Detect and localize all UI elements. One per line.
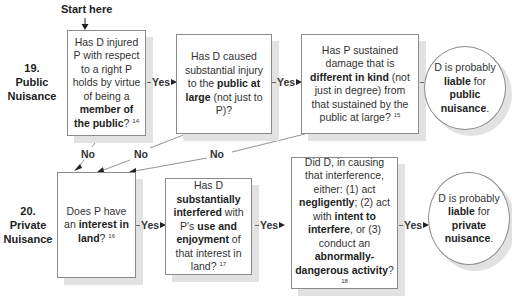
private-q3-yes-arrow: Yes: [399, 219, 429, 231]
result-text: D is probably: [434, 61, 495, 73]
private-q1-yes-arrow: Yes: [136, 219, 166, 231]
footnote-ref: 14: [132, 118, 139, 124]
public-q3-box: Has P sustained damage that is different…: [301, 34, 419, 134]
result-bold-text: liable: [444, 75, 471, 87]
public-q1-box: Has D injured P with respect to a right …: [67, 30, 146, 136]
section-title-line2: Nuisance: [6, 89, 58, 103]
section-label-public-nuisance: 19. Public Nuisance: [6, 61, 58, 103]
result-text: D is probably: [438, 192, 499, 204]
result-text: for: [475, 205, 490, 217]
question-text: ?: [100, 232, 106, 244]
section-label-private-nuisance: 20. Private Nuisance: [2, 204, 54, 246]
question-text: ?: [388, 264, 394, 276]
yes-label: Yes: [277, 76, 295, 88]
result-text: .: [490, 232, 493, 244]
section-number: 20.: [2, 204, 54, 218]
question-text: Did D, in causing that interference, eit…: [305, 156, 384, 195]
footnote-ref: 16: [108, 233, 115, 239]
private-q2-yes-arrow: Yes: [255, 219, 285, 231]
private-q2-box: Has D substantially interfered with P's …: [165, 178, 252, 275]
connector-line: [272, 82, 276, 83]
public-q2-no-label: No: [134, 148, 148, 160]
question-text: ?: [124, 117, 130, 129]
private-nuisance-result-oval: D is probably liable for private nuisanc…: [428, 172, 510, 265]
yes-label: Yes: [260, 219, 278, 231]
public-q2-box: Has D caused substantial injury to the p…: [176, 34, 272, 134]
question-bold-text: different in kind: [310, 71, 389, 83]
question-text: (not just to P)?: [211, 91, 263, 117]
public-q1-yes-arrow: Yes: [147, 76, 177, 88]
question-bold-text: abnormally-dangerous activity: [295, 250, 388, 276]
result-text: .: [486, 102, 489, 114]
public-q3-no-label: No: [210, 148, 224, 160]
yes-label: Yes: [152, 76, 170, 88]
section-title-line2: Nuisance: [2, 232, 54, 246]
yes-label: Yes: [141, 219, 159, 231]
connector-line: [136, 225, 140, 226]
question-text: Has P sustained damage that is: [322, 44, 398, 70]
private-q1-box: Does P have an interest in land? 16: [57, 172, 136, 278]
start-here-label: Start here: [61, 3, 112, 15]
yes-label: Yes: [404, 219, 422, 231]
section-title-line1: Public: [6, 75, 58, 89]
result-text: for: [471, 75, 486, 87]
question-bold-text: negligently: [299, 196, 354, 208]
footnote-ref: 17: [219, 261, 226, 267]
result-bold-text: public nuisance: [441, 88, 487, 114]
connector-line: [147, 82, 151, 83]
public-q2-yes-arrow: Yes: [272, 76, 302, 88]
arrow-right-icon: [279, 222, 285, 228]
public-nuisance-result-oval: D is probably liable for public nuisance…: [424, 46, 506, 130]
connector-line: [255, 225, 259, 226]
question-text: Has D: [194, 179, 223, 191]
section-title-line1: Private: [2, 218, 54, 232]
connector-line: [399, 225, 403, 226]
result-bold-text: private nuisance: [445, 219, 491, 245]
section-number: 19.: [6, 61, 58, 75]
result-bold-text: liable: [448, 205, 475, 217]
public-q1-no-label: No: [81, 148, 95, 160]
footnote-ref: 18: [341, 278, 348, 284]
question-text: Has D injured P with respect to a right …: [73, 36, 141, 102]
private-q3-box: Did D, in causing that interference, eit…: [291, 157, 398, 289]
footnote-ref: 15: [394, 112, 401, 118]
